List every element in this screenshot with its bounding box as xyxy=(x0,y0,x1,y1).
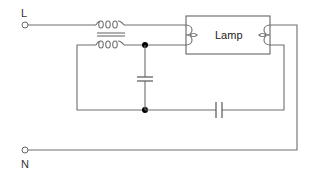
filament-right-icon xyxy=(259,25,270,45)
neutral-wire xyxy=(28,25,297,150)
line-terminal-label: L xyxy=(21,7,27,19)
filament-left-icon xyxy=(186,25,197,45)
left-loop-wire xyxy=(77,45,145,110)
line-terminal xyxy=(22,22,28,28)
inductor-top xyxy=(96,21,124,28)
series-cap-wire xyxy=(145,45,284,110)
inductor-bottom xyxy=(96,41,124,48)
circuit-diagram: L Lamp N xyxy=(0,0,320,185)
neutral-terminal xyxy=(22,147,28,153)
neutral-terminal-label: N xyxy=(21,158,29,170)
lamp-label: Lamp xyxy=(215,29,243,41)
